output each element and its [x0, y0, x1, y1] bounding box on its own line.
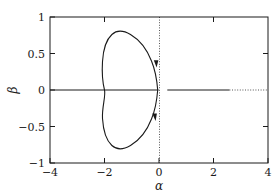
- x-axis-title: α: [155, 179, 163, 193]
- xtick-label-3: 2: [210, 166, 217, 179]
- ytick-label-0: −1: [29, 157, 45, 170]
- ytick-label-4: 1: [38, 11, 45, 24]
- phase-plane-plot: −4 −2 0 2 4 −1 −0.5 0 0.5 1 α β: [0, 0, 280, 194]
- ytick-label-1: −0.5: [18, 121, 45, 134]
- y-axis-title: β: [6, 86, 20, 94]
- ytick-label-2: 0: [38, 84, 45, 97]
- ytick-label-3: 0.5: [28, 48, 46, 61]
- chart-figure: −4 −2 0 2 4 −1 −0.5 0 0.5 1 α β: [0, 0, 280, 194]
- xtick-label-4: 4: [265, 166, 272, 179]
- xtick-label-2: 0: [156, 166, 163, 179]
- xtick-label-1: −2: [96, 166, 112, 179]
